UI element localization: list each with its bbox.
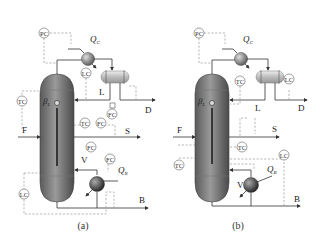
stream-d-a: D — [145, 105, 152, 115]
svg-text:LC: LC — [280, 152, 288, 159]
svg-text:FC: FC — [108, 111, 116, 118]
caption-b: (b) — [232, 220, 244, 232]
stream-v-b: V — [237, 180, 244, 190]
qc-label-b: QC — [243, 34, 254, 45]
lc-condenser-b: LC — [284, 74, 294, 84]
qc-label-a: QC — [90, 34, 101, 45]
lc-condenser-a: LC — [81, 68, 91, 78]
qb-label-b: QB — [267, 164, 277, 175]
condenser-b — [235, 53, 248, 66]
stream-f-b: F — [177, 125, 182, 135]
svg-text:PC: PC — [40, 30, 48, 37]
fc-vapor-a: FC — [86, 142, 96, 152]
stream-s-b: S — [272, 124, 277, 134]
svg-text:TC: TC — [236, 78, 244, 85]
tc-upper-a: TC — [17, 96, 27, 106]
stream-l-a: L — [99, 87, 105, 97]
fc-mid-a: FC — [96, 118, 106, 128]
reflux-drum-a — [101, 71, 129, 83]
fc-distillate-a: FC — [107, 109, 117, 119]
svg-text:FC: FC — [87, 144, 95, 151]
svg-text:LC: LC — [82, 70, 90, 77]
svg-text:TC: TC — [18, 98, 26, 105]
stream-d-b: D — [298, 103, 305, 113]
tc-upper-b: TC — [235, 76, 245, 86]
pc-controller-a: PC — [39, 28, 49, 38]
distillation-diagrams: βL QC L D F S V QR B — [0, 0, 322, 252]
svg-text:FC: FC — [106, 156, 114, 163]
svg-text:TC: TC — [238, 144, 246, 151]
svg-text:FC: FC — [97, 120, 105, 127]
caption-a: (a) — [77, 220, 88, 232]
panel-b: βL QC L D F S V QB B — [173, 28, 307, 232]
lc-bottom-b: LC — [279, 150, 289, 160]
stream-l-b: L — [255, 103, 261, 113]
svg-text:LC: LC — [285, 76, 293, 83]
stream-v-a: V — [81, 155, 88, 165]
stream-b-b: B — [294, 194, 300, 204]
svg-text:TC: TC — [175, 162, 183, 169]
svg-text:LC: LC — [20, 191, 28, 198]
lc-bottom-a: LC — [19, 189, 29, 199]
fc-reboiler-a: FC — [105, 154, 115, 164]
svg-text:PC: PC — [195, 30, 203, 37]
tc-mid-b: TC — [237, 142, 247, 152]
reboiler-b — [244, 178, 259, 193]
svg-text:TC: TC — [81, 120, 89, 127]
qr-label-a: QR — [118, 165, 128, 176]
stream-s-a: S — [125, 126, 130, 136]
stream-b-a: B — [139, 195, 145, 205]
reflux-drum-b — [256, 71, 284, 83]
panel-a: βL QC L D F S V QR B — [17, 28, 155, 232]
condenser-a — [82, 53, 95, 66]
pc-controller-b: PC — [194, 28, 204, 38]
tc-lower-b: TC — [174, 160, 184, 170]
reboiler-a — [90, 177, 105, 192]
stream-f-a: F — [22, 125, 27, 135]
tc-mid-a: TC — [80, 118, 90, 128]
